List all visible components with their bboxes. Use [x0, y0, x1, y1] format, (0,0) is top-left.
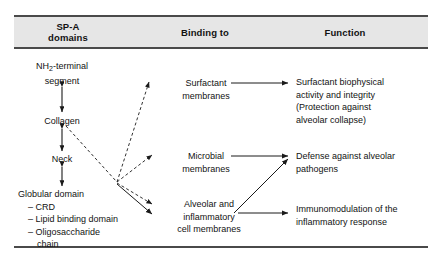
dashed-arrow-hub-to-surfactant-membranes	[117, 82, 149, 182]
binding-surfactant-line2: membranes	[150, 90, 262, 103]
header-bottom-rule	[14, 47, 428, 49]
column-header-function: Function	[290, 27, 400, 38]
binding-alveolar-line1: Alveolar and	[150, 198, 268, 211]
function-2-line1: Defense against alveolar	[296, 150, 432, 163]
domain-nh2-nh: NH	[36, 61, 49, 71]
domain-globular-label: Globular domain	[18, 188, 138, 201]
binding-microbial-line1: Microbial	[150, 150, 262, 163]
function-1-line3: (Protection against	[296, 101, 432, 114]
column-header-line2: domains	[20, 32, 116, 43]
column-header-sp-a-domains: SP-A domains	[20, 21, 116, 43]
domain-nh2-line1: NH2-terminal	[8, 60, 116, 75]
function-immunomodulation-inflammatory-response: Immunomodulation of the inflammatory res…	[296, 203, 432, 228]
domain-nh2-terminal: -terminal	[53, 61, 88, 71]
binding-alveolar-line3: cell membranes	[150, 223, 268, 236]
binding-target-alveolar-inflammatory-cell-membranes: Alveolar and inflammatory cell membranes	[150, 198, 268, 236]
function-1-line1: Surfactant biophysical	[296, 76, 432, 89]
domain-nh2-line2: segment	[8, 75, 116, 88]
binding-surfactant-line1: Surfactant	[150, 77, 262, 90]
column-header-line1: SP-A	[20, 21, 116, 32]
function-3-line2: inflammatory response	[296, 216, 432, 229]
function-3-line1: Immunomodulation of the	[296, 203, 432, 216]
function-surfactant-biophysical-activity: Surfactant biophysical activity and inte…	[296, 76, 432, 126]
domain-globular-item-chain: chain	[18, 238, 138, 251]
function-1-line4: alveolar collapse)	[296, 114, 432, 127]
domain-globular-item-crd: – CRD	[18, 201, 138, 214]
figure-container: SP-A domains Binding to Function NH2-ter…	[0, 0, 439, 261]
function-1-line2: activity and integrity	[296, 89, 432, 102]
domain-globular-item-lipid-binding-domain: – Lipid binding domain	[18, 213, 138, 226]
function-defense-against-alveolar-pathogens: Defense against alveolar pathogens	[296, 150, 432, 175]
dashed-arrow-hub-to-microbial-membranes	[117, 155, 152, 182]
domain-nh2-terminal-segment: NH2-terminal segment	[8, 60, 116, 88]
column-header-binding-to: Binding to	[150, 27, 260, 38]
domain-collagen: Collagen	[8, 115, 116, 128]
binding-target-surfactant-membranes: Surfactant membranes	[150, 77, 262, 102]
binding-target-microbial-membranes: Microbial membranes	[150, 150, 262, 175]
function-2-line2: pathogens	[296, 163, 432, 176]
binding-microbial-line2: membranes	[150, 163, 262, 176]
domain-neck: Neck	[8, 153, 116, 166]
domain-globular: Globular domain – CRD – Lipid binding do…	[18, 188, 138, 251]
binding-alveolar-line2: inflammatory	[150, 211, 268, 224]
domain-globular-item-oligosaccharide: – Oligosaccharide	[18, 226, 138, 239]
